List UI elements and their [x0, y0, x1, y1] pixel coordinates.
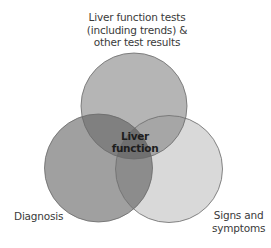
center-label-line: Liver: [104, 130, 166, 142]
label-line: Liver function tests: [72, 11, 202, 24]
center-label-liver-function: Liver function: [104, 130, 166, 154]
label-signs-symptoms: Signs and symptoms: [212, 209, 265, 234]
label-diagnosis: Diagnosis: [14, 210, 63, 223]
label-line: other test results: [72, 36, 202, 49]
label-line: (including trends) &: [72, 24, 202, 37]
label-line: Signs and: [212, 209, 265, 222]
label-line: symptoms: [212, 222, 265, 235]
label-line: Diagnosis: [14, 210, 63, 223]
center-label-line: function: [104, 142, 166, 154]
label-liver-function-tests: Liver function tests (including trends) …: [72, 11, 202, 49]
